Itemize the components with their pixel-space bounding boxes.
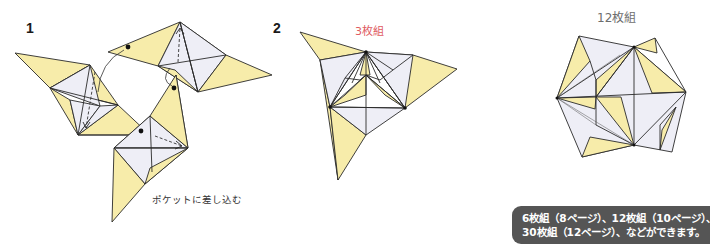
caption-box: 6枚組（8ページ）、12枚組（10ページ）、 30枚組（12ページ）、などができ… (512, 206, 710, 244)
caption-line-1: 6枚組（8ページ）、12枚組（10ページ）、 (522, 211, 710, 225)
caption-line-2: 30枚組（12ページ）、などができます。 (522, 225, 710, 239)
